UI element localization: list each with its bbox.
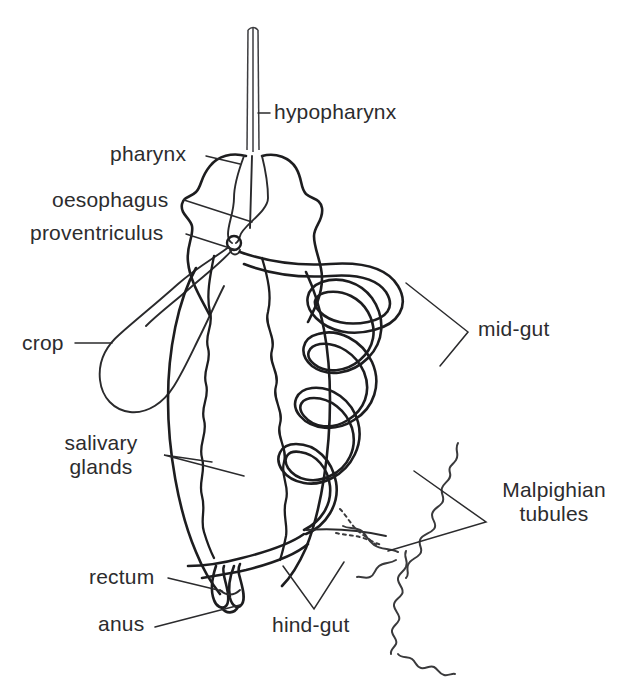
label-crop: crop — [22, 331, 64, 355]
leader-mid-gut — [406, 283, 468, 366]
label-proventriculus: proventriculus — [30, 221, 164, 245]
salivary-glands-shape — [201, 256, 287, 560]
leader-salivary-glands — [164, 455, 244, 476]
label-rectum: rectum — [89, 565, 154, 589]
label-salivary-glands-line1: salivary — [65, 431, 138, 454]
leader-oesophagus — [184, 200, 252, 222]
label-malpighian-line2: tubules — [519, 502, 588, 525]
leader-anus — [155, 605, 240, 627]
label-salivary-glands: salivary glands — [42, 431, 160, 478]
leader-hind-gut — [283, 562, 344, 609]
label-hind-gut: hind-gut — [272, 613, 350, 637]
label-hypopharynx: hypopharynx — [274, 100, 396, 124]
rectum-shape — [212, 564, 244, 608]
label-pharynx: pharynx — [110, 142, 186, 166]
oesophagus-shape — [228, 156, 268, 243]
label-mid-gut: mid-gut — [478, 317, 549, 341]
anatomy-diagram: hypopharynx pharynx oesophagus proventri… — [0, 0, 634, 681]
label-oesophagus: oesophagus — [52, 188, 168, 212]
label-anus: anus — [98, 612, 144, 636]
label-salivary-glands-line2: glands — [69, 455, 132, 478]
hypopharynx-shape — [247, 28, 259, 153]
leader-malpighian-tubules — [388, 471, 486, 551]
malpighian-tubules-shape — [336, 443, 458, 675]
label-malpighian-tubules: Malpighian tubules — [490, 478, 618, 525]
label-malpighian-line1: Malpighian — [502, 478, 606, 501]
